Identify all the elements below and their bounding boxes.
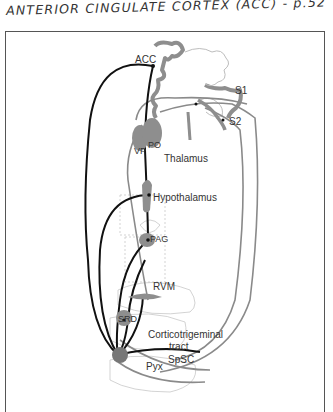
label-hypothalamus: Hypothalamus	[153, 193, 217, 203]
cortex-band	[152, 42, 241, 118]
label-vp: VP	[134, 147, 146, 156]
label-thalamus: Thalamus	[164, 154, 208, 164]
label-tract: tract	[169, 342, 188, 352]
label-s1: S1	[235, 86, 247, 96]
label-pag: PAG	[150, 235, 168, 244]
hypothalamus-region	[142, 180, 152, 213]
label-s2: S2	[229, 117, 241, 127]
label-rvm: RVM	[153, 282, 175, 292]
label-acc: ACC	[135, 55, 156, 65]
label-srd: SRD	[118, 315, 137, 324]
label-pyx: Pyx	[146, 362, 163, 372]
s2-lower	[188, 112, 190, 140]
label-spsc: SpSC	[168, 355, 194, 365]
spinal-trigeminal-region	[112, 347, 128, 363]
label-po: PO	[148, 141, 161, 150]
label-corticotrigeminal: Corticotrigeminal	[148, 330, 223, 340]
